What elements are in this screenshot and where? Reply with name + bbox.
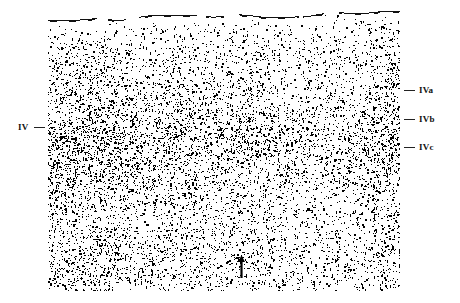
label-layer-iv: IV bbox=[18, 123, 28, 132]
tick-layer-iv bbox=[34, 127, 45, 128]
tick-layer-iva bbox=[404, 90, 415, 91]
tick-layer-ivb bbox=[404, 119, 415, 120]
micrograph-canvas bbox=[48, 10, 400, 291]
micrograph-plate bbox=[48, 10, 400, 291]
tick-layer-ivc bbox=[404, 147, 415, 148]
label-layer-iva: IVa bbox=[419, 86, 433, 95]
label-layer-ivc: IVc bbox=[419, 143, 434, 152]
figure-root: IV IVa IVb IVc bbox=[0, 0, 460, 303]
label-layer-ivb: IVb bbox=[419, 115, 435, 124]
